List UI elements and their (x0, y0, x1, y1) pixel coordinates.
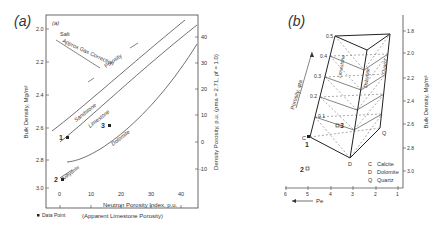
inner-label-a: (a) (52, 20, 59, 26)
x-tick-label: 20 (118, 191, 124, 197)
pe-label: Pe (316, 198, 324, 204)
y-right-tick-label: 20 (201, 86, 207, 92)
legend-marker (37, 214, 40, 217)
chart-b: 1.8 2.0 2.2 2.4 2.6 2.8 3.0 Bulk Density… (284, 15, 429, 204)
panel-label-a: (a) (14, 13, 31, 29)
y-right-tick-label: 2.0 (407, 50, 414, 56)
y-tick-label: 2.8 (36, 157, 44, 163)
prism-grid-solid (315, 54, 388, 130)
y-tick-label: 3.0 (36, 185, 44, 191)
x-tick-label: 1 (396, 191, 399, 197)
corner-label-dolomite: D (348, 161, 352, 167)
y-right-tick-label: 0 (201, 139, 204, 145)
x-tick-label: 6 (284, 191, 287, 197)
x-axis-title-a: Neutron Porosity Index, p.u. (103, 202, 178, 208)
legend-key: D (368, 169, 372, 175)
x-tick-label: 4 (329, 191, 332, 197)
sandstone-curve (52, 20, 185, 131)
y-tick-label: 2.6 (36, 125, 44, 131)
y-right-tick-label: 40 (201, 34, 207, 40)
y-axis-left-a: 2.0 2.2 2.4 2.6 2.8 3.0 (36, 26, 49, 191)
corner-label-quartz: Q (382, 130, 387, 136)
pe-arrow-head-icon (292, 199, 296, 203)
data-point-label: 1 (305, 141, 309, 148)
y-right-tick-label: 2.4 (407, 98, 414, 104)
y-tick-label: 2.0 (36, 26, 44, 32)
porosity-tick-label: 0.2 (310, 93, 317, 99)
y-right-axis-title-a: Density Porosity, p.u. (ρma = 2.71, ρf =… (213, 54, 219, 170)
legend-key: Q (368, 177, 373, 183)
y-right-tick-label: 1.8 (407, 28, 414, 34)
porosity-arrow-low (88, 78, 94, 82)
legend-b: C Calcite D Dolomite Q Quartz (368, 161, 399, 183)
data-point-1 (66, 136, 69, 139)
legend-key: C (368, 161, 372, 167)
y-right-axis-title-b: Bulk Density, Mg/m³ (423, 75, 429, 128)
legend-label: Data Point (42, 212, 66, 218)
data-point-label: 3 (101, 122, 105, 129)
y-right-tick-label: 10 (201, 112, 207, 118)
porosity-arrow-high (130, 43, 138, 48)
legend-label: Calcite (377, 161, 394, 167)
y-right-tick-label: 2.8 (407, 145, 414, 151)
x-tick-label: 10 (88, 191, 94, 197)
x-tick-label: 5 (306, 191, 309, 197)
y-right-tick-label: 2.6 (407, 121, 414, 127)
limestone-curve (60, 25, 197, 142)
data-point-3 (108, 124, 111, 127)
y-right-tick-label: 30 (201, 60, 207, 66)
panel-label-b: (b) (288, 13, 305, 29)
y-axis-right-a: 40 30 20 10 0 -10 (195, 34, 207, 172)
data-point-label: 2 (300, 166, 304, 173)
x-tick-label: 0 (58, 191, 61, 197)
porosity-tick-label: 0.3 (314, 73, 321, 79)
quartz-face-label: Quartz (380, 58, 388, 74)
y-right-tick-label: 2.2 (407, 75, 414, 81)
x-tick-label: 40 (178, 191, 184, 197)
dolomite-label: Dolomite (110, 129, 131, 147)
x-tick-label: 3 (351, 191, 354, 197)
x-tick-label: 2 (374, 191, 377, 197)
legend-label: Quartz (377, 177, 394, 183)
chart-a: (a) 2.0 2.2 2.4 2.6 2.8 3.0 Bulk Density… (23, 15, 219, 219)
data-point-1 (307, 135, 310, 138)
x-tick-label: 30 (148, 191, 154, 197)
figure-canvas: (a) (b) (a) 2.0 2.2 2.4 2.6 2.8 3.0 Bulk… (0, 0, 442, 225)
porosity-tick-label: 0.1 (318, 113, 325, 119)
y-tick-label: 2.4 (36, 92, 44, 98)
salt-annotation: Salt (60, 31, 70, 37)
limestone-face-label: Limestone (336, 54, 346, 78)
data-point-2 (61, 178, 64, 181)
y-axis-right-b-ticks: 1.8 2.0 2.2 2.4 2.6 2.8 3.0 (403, 28, 414, 174)
data-point-label: 1 (59, 134, 63, 141)
porosity-tick-label: 0.4 (320, 53, 327, 59)
y-right-tick-label: -10 (199, 166, 207, 172)
data-point-label: 2 (54, 176, 58, 183)
y-axis-title-a: Bulk Density, Mg/m³ (23, 85, 29, 138)
data-point-label: 3 (340, 122, 344, 129)
y-tick-label: 2.2 (36, 59, 44, 65)
porosity-arrow-head-icon (310, 52, 314, 57)
porosity-tick-label: 0.5 (326, 33, 333, 39)
data-point-2 (306, 167, 309, 170)
y-right-tick-label: 3.0 (407, 168, 414, 174)
legend-label: Dolomite (377, 169, 399, 175)
x-axis-subtitle-a: (Apparent Limestone Porosity) (82, 213, 163, 219)
